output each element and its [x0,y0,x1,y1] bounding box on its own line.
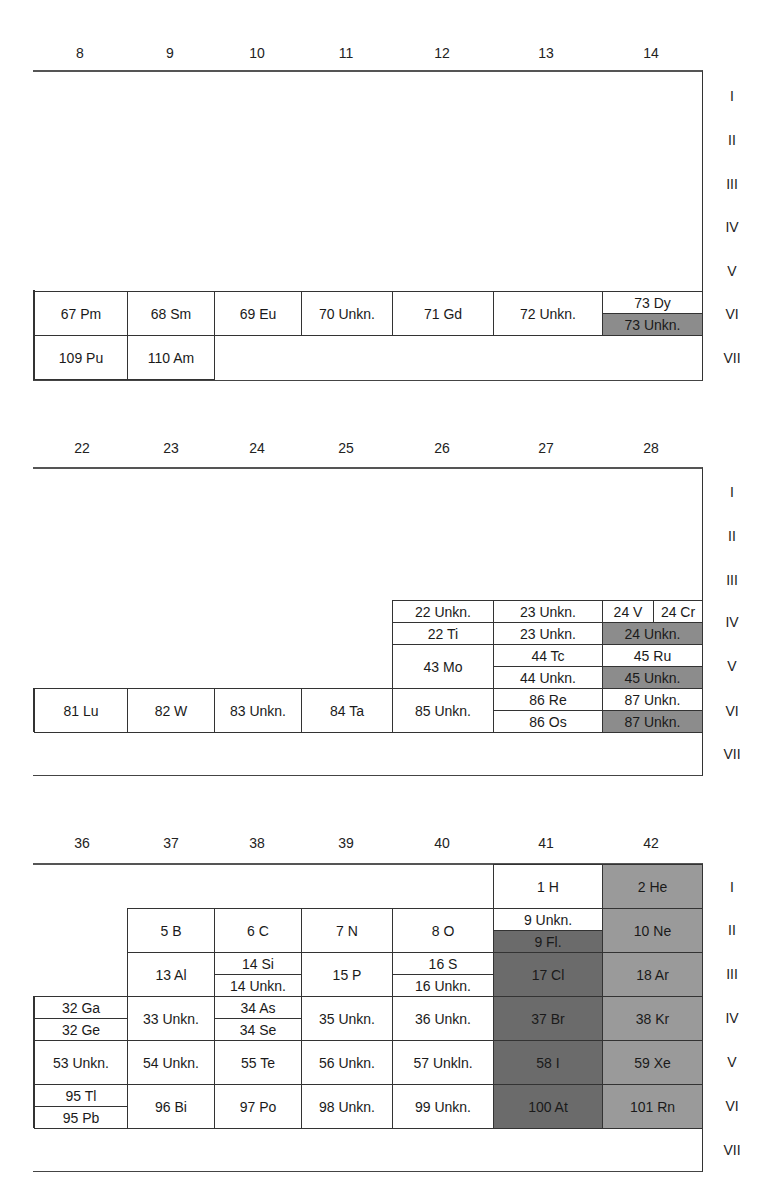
element-cell: 53 Unkn. [34,1040,128,1085]
element-cell: 5 B [127,908,215,953]
column-header: 42 [621,835,681,851]
element-cell: 14 Si [214,952,302,975]
element-cell: 32 Ge [34,1018,128,1041]
column-header: 36 [52,835,112,851]
row-label: I [712,879,752,895]
element-cell-noble-gas: 2 He [602,864,703,909]
column-header: 38 [227,835,287,851]
element-cell: 1 H [493,864,603,909]
section-columns-36-42: 36 37 38 39 40 41 42 I II III IV V VI VI… [0,0,769,1196]
element-cell: 34 Se [214,1018,302,1041]
element-cell: 97 Po [214,1084,302,1129]
row-label: III [712,966,752,982]
element-cell-halogen: 9 Fl. [493,930,603,953]
element-cell-noble-gas: 10 Ne [602,908,703,953]
row-label: II [712,922,752,938]
element-cell: 56 Unkn. [301,1040,393,1085]
element-cell: 55 Te [214,1040,302,1085]
element-cell: 6 C [214,908,302,953]
element-cell: 16 S [392,952,494,975]
element-cell: 57 Unkln. [392,1040,494,1085]
element-cell: 54 Unkn. [127,1040,215,1085]
element-cell: 16 Unkn. [392,974,494,997]
row-label: V [712,1054,752,1070]
element-cell: 34 As [214,996,302,1019]
element-cell: 14 Unkn. [214,974,302,997]
element-cell-halogen: 37 Br [493,996,603,1041]
element-cell: 15 P [301,952,393,997]
element-cell-noble-gas: 38 Kr [602,996,703,1041]
element-cell: 96 Bi [127,1084,215,1129]
element-cell: 95 Pb [34,1106,128,1129]
element-cell: 99 Unkn. [392,1084,494,1129]
row-label: VI [712,1098,752,1114]
element-cell-noble-gas: 101 Rn [602,1084,703,1129]
element-cell: 35 Unkn. [301,996,393,1041]
element-cell-halogen: 58 I [493,1040,603,1085]
element-cell-noble-gas: 18 Ar [602,952,703,997]
column-header: 37 [141,835,201,851]
element-cell: 32 Ga [34,996,128,1019]
element-cell: 33 Unkn. [127,996,215,1041]
element-cell: 36 Unkn. [392,996,494,1041]
element-cell: 7 N [301,908,393,953]
column-header: 39 [316,835,376,851]
element-cell: 95 Tl [34,1084,128,1107]
row-label: IV [712,1010,752,1026]
element-cell: 8 O [392,908,494,953]
element-cell: 13 Al [127,952,215,997]
column-header: 41 [516,835,576,851]
column-header: 40 [412,835,472,851]
element-cell-halogen: 17 Cl [493,952,603,997]
element-cell-halogen: 100 At [493,1084,603,1129]
element-cell-noble-gas: 59 Xe [602,1040,703,1085]
row-label: VII [712,1142,752,1158]
element-cell: 98 Unkn. [301,1084,393,1129]
element-cell: 9 Unkn. [493,908,603,931]
